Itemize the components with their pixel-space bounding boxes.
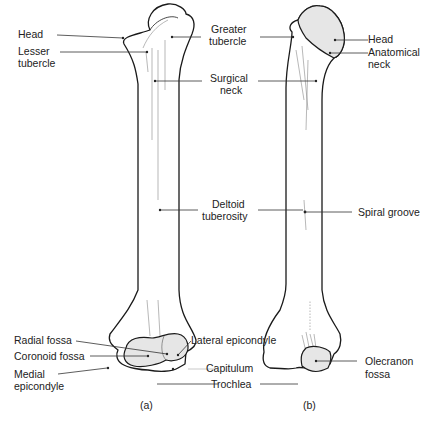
label-coronoid-fossa: Coronoid fossa — [14, 350, 85, 362]
label-deltoid-tuberosity-line1: Deltoid — [212, 198, 245, 210]
trochlea-b — [301, 346, 331, 371]
label-greater-tubercle-line2: tubercle — [209, 35, 247, 47]
label-anatomical-neck-line1: Anatomical — [368, 46, 420, 58]
humerus-posterior — [263, 6, 344, 372]
caption-panel-a: (a) — [140, 399, 153, 411]
label-capitulum: Capitulum — [206, 362, 254, 374]
humerus-diagram: Head Lesser tubercle Greater tubercle Su… — [0, 0, 446, 424]
label-surgical-neck-line2: neck — [220, 84, 243, 96]
label-lesser-tubercle-line1: Lesser — [18, 45, 50, 57]
label-surgical-neck-line1: Surgical — [210, 72, 248, 84]
label-trochlea: Trochlea — [211, 378, 252, 390]
label-olecranon-fossa-line2: fossa — [365, 368, 390, 380]
label-anatomical-neck-line2: neck — [368, 58, 391, 70]
label-medial-epicondyle-line2: epicondyle — [14, 380, 64, 392]
labels: Head Lesser tubercle Greater tubercle Su… — [14, 23, 420, 411]
caption-panel-b: (b) — [303, 399, 316, 411]
label-radial-fossa: Radial fossa — [14, 334, 72, 346]
label-spiral-groove: Spiral groove — [358, 206, 420, 218]
label-greater-tubercle-line1: Greater — [211, 23, 247, 35]
label-head-a: Head — [18, 28, 43, 40]
label-lesser-tubercle-line2: tubercle — [18, 57, 56, 69]
bone-a-outline — [109, 4, 196, 371]
bone-b-outline — [263, 6, 344, 369]
label-medial-epicondyle-line1: Medial — [14, 368, 45, 380]
humerus-anterior — [109, 4, 196, 371]
label-head-b: Head — [368, 33, 393, 45]
diagram-canvas: Head Lesser tubercle Greater tubercle Su… — [0, 0, 446, 424]
label-deltoid-tuberosity-line2: tuberosity — [202, 210, 248, 222]
label-lateral-epicondyle: Lateral epicondyle — [191, 334, 276, 346]
label-olecranon-fossa-line1: Olecranon — [365, 355, 414, 367]
